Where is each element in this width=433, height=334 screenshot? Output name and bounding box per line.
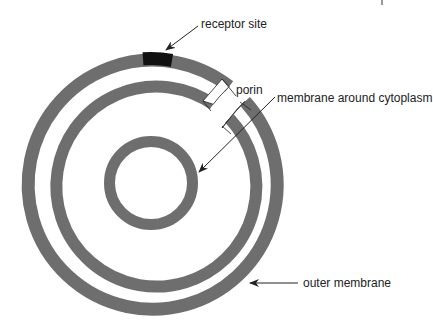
cytoplasm-membrane-label: membrane around cytoplasm bbox=[277, 91, 432, 105]
outer-membrane-ring bbox=[28, 60, 277, 309]
middle-membrane-ring bbox=[56, 87, 256, 287]
porin-label: porin bbox=[236, 83, 263, 97]
cell-envelope-diagram: receptor site porin membrane around cyto… bbox=[0, 0, 433, 334]
receptor-site-arrow bbox=[166, 26, 198, 50]
cytoplasm-membrane-ring bbox=[110, 142, 193, 225]
receptor-site-label: receptor site bbox=[201, 17, 267, 31]
receptor-site bbox=[143, 59, 172, 61]
outer-membrane-label: outer membrane bbox=[303, 276, 391, 290]
